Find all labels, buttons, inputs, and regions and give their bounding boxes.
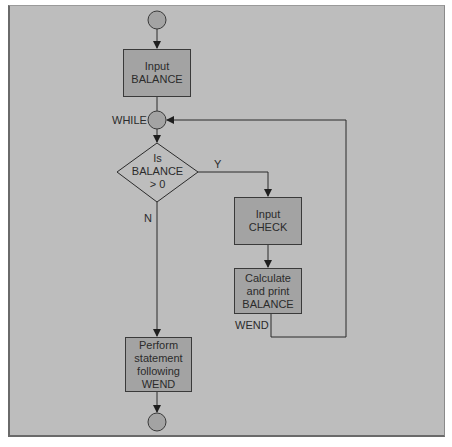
end-circle-icon: [148, 413, 166, 431]
while-circle-icon: [148, 111, 166, 129]
input-balance-label: Input BALANCE: [131, 60, 182, 86]
flowchart-connectors: [0, 0, 452, 447]
calculate-print-box: Calculate and print BALANCE: [234, 268, 302, 314]
wend-label: WEND: [235, 319, 269, 331]
while-label: WHILE: [112, 114, 147, 126]
perform-statement-label: Perform statement following WEND: [134, 339, 182, 391]
perform-statement-box: Perform statement following WEND: [125, 337, 192, 392]
calculate-print-label: Calculate and print BALANCE: [242, 272, 293, 311]
start-circle-icon: [148, 11, 166, 29]
input-check-label: Input CHECK: [249, 208, 288, 234]
input-balance-box: Input BALANCE: [123, 49, 191, 97]
input-check-box: Input CHECK: [234, 197, 302, 245]
yes-label: Y: [214, 158, 221, 170]
decision-label: Is BALANCE > 0: [117, 152, 198, 191]
no-label: N: [144, 212, 152, 224]
